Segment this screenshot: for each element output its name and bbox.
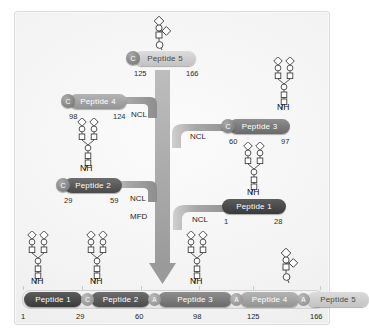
residue-number-28: 28 <box>274 217 282 226</box>
junction-marker-cys: C <box>81 293 94 306</box>
product-position-98: 98 <box>193 312 201 321</box>
cys-marker-peptide-2: C <box>56 178 70 192</box>
segment-peptide-4[interactable]: Peptide 4 <box>69 94 127 109</box>
product-block-peptide-3[interactable]: Peptide 3 <box>158 292 232 307</box>
segment-peptide-5[interactable]: Peptide 5 <box>134 51 196 66</box>
product-block-peptide-1[interactable]: Peptide 1 <box>24 292 82 307</box>
amide-label-peptide3: NH <box>277 102 289 112</box>
product-block-peptide-2[interactable]: Peptide 2 <box>91 292 150 307</box>
ligation-label-peptide1: NCL <box>192 215 208 224</box>
amide-label-product-peptide3: NH <box>190 276 202 286</box>
product-position-166: 166 <box>310 312 323 321</box>
ligation-label-peptide4: NCL <box>131 110 147 119</box>
segment-peptide-2[interactable]: Peptide 2 <box>64 178 122 193</box>
residue-number-125: 125 <box>134 69 147 78</box>
residue-number-98: 98 <box>69 112 77 121</box>
tick-mark <box>23 286 24 290</box>
ligation-label-peptide3: NCL <box>190 132 206 141</box>
junction-marker-ala-3: A <box>297 293 310 306</box>
cys-marker-peptide-5: C <box>126 51 140 65</box>
product-position-125: 125 <box>247 312 260 321</box>
assembled-glycoprotein-bar: Peptide 1 C Peptide 2 A Peptide 3 A Pept… <box>22 290 324 309</box>
glycan-product-peptide5 <box>277 248 307 288</box>
residue-number-1: 1 <box>224 217 228 226</box>
junction-marker-ala-2: A <box>230 293 243 306</box>
amide-label-product-peptide1: NH <box>31 276 43 286</box>
amide-label-peptide1: NH <box>247 187 259 197</box>
amide-label-peptide4: NH <box>80 163 92 173</box>
segment-peptide-1[interactable]: Peptide 1 <box>222 199 286 214</box>
tick-mark <box>320 286 321 290</box>
product-position-29: 29 <box>76 312 84 321</box>
product-position-60: 60 <box>135 312 143 321</box>
residue-number-60: 60 <box>229 137 237 146</box>
segment-peptide-3[interactable]: Peptide 3 <box>229 119 290 134</box>
junction-marker-ala-1: A <box>148 293 161 306</box>
residue-number-97: 97 <box>281 137 289 146</box>
product-block-peptide-4[interactable]: Peptide 4 <box>240 292 299 307</box>
residue-number-59: 59 <box>110 196 118 205</box>
ligation-label-peptide2: NCL <box>130 194 146 203</box>
residue-number-166: 166 <box>186 69 199 78</box>
residue-number-29: 29 <box>64 196 72 205</box>
cys-marker-peptide-3: C <box>221 119 235 133</box>
product-position-1: 1 <box>21 312 25 321</box>
glycan-o-linked-peptide5 <box>150 16 180 54</box>
cys-marker-peptide-4: C <box>61 94 75 108</box>
product-block-peptide-5[interactable]: Peptide 5 <box>307 292 369 307</box>
desulfurization-label: MFD <box>130 212 147 221</box>
residue-number-124: 124 <box>113 112 126 121</box>
amide-label-product-peptide2: NH <box>90 276 102 286</box>
